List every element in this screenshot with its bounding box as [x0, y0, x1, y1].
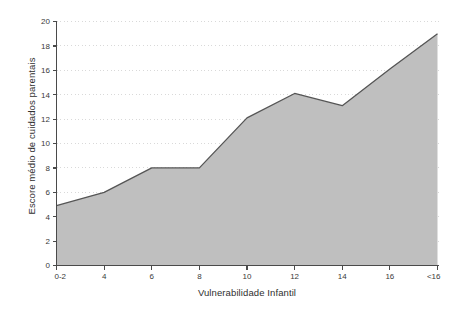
y-tick-label-6: 6 — [46, 188, 51, 197]
area-series-group — [57, 34, 438, 266]
y-tick-label-2: 2 — [46, 237, 51, 246]
y-tick-label-16: 16 — [41, 66, 50, 75]
x-tick-label-8: 8 — [197, 272, 202, 281]
x-tick-label-14: 14 — [338, 272, 347, 281]
area-chart: Escore médio de cuidados parentais 02468… — [0, 0, 465, 312]
x-tick-label-6: 6 — [150, 272, 155, 281]
x-tick-label-12: 12 — [290, 272, 299, 281]
y-tick-label-12: 12 — [41, 115, 50, 124]
y-tick-label-0: 0 — [46, 261, 51, 270]
x-tick-label-10: 10 — [243, 272, 252, 281]
x-axis-title: Vulnerabilidade Infantil — [56, 287, 438, 298]
y-tick-label-14: 14 — [41, 91, 50, 100]
plot-area: 02468101214161820 0-246810121416<16 — [0, 0, 465, 312]
y-tick-label-10: 10 — [41, 139, 50, 148]
area-fill — [57, 34, 438, 266]
y-tick-label-4: 4 — [46, 213, 51, 222]
y-tick-group: 02468101214161820 — [41, 17, 56, 270]
x-tick-label-4: 4 — [102, 272, 107, 281]
y-tick-label-18: 18 — [41, 42, 50, 51]
x-tick-label-<16: <16 — [427, 272, 441, 281]
x-tick-label-0-2: 0-2 — [55, 272, 67, 281]
x-tick-label-16: 16 — [385, 272, 394, 281]
y-tick-label-20: 20 — [41, 17, 50, 26]
x-tick-group: 0-246810121416<16 — [55, 266, 442, 282]
y-tick-label-8: 8 — [46, 164, 51, 173]
